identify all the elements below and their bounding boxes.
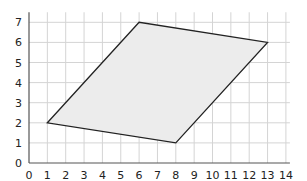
- x-tick-label: 7: [154, 169, 161, 181]
- x-tick-label: 3: [81, 169, 88, 181]
- x-tick-label: 0: [26, 169, 33, 181]
- x-tick-label: 5: [117, 169, 124, 181]
- x-axis-tick-labels: 01234567891011121314: [26, 169, 293, 181]
- x-tick-label: 2: [62, 169, 69, 181]
- y-axis-tick-labels: 01234567: [15, 16, 22, 170]
- y-tick-label: 7: [15, 16, 22, 29]
- x-tick-label: 13: [261, 169, 275, 181]
- x-tick-label: 4: [99, 169, 106, 181]
- x-tick-label: 9: [191, 169, 198, 181]
- y-tick-label: 3: [15, 97, 22, 110]
- y-tick-label: 2: [15, 117, 22, 130]
- y-tick-label: 5: [15, 57, 22, 70]
- x-tick-label: 11: [224, 169, 238, 181]
- x-tick-label: 6: [136, 169, 143, 181]
- y-tick-label: 1: [15, 137, 22, 150]
- x-tick-label: 1: [44, 169, 51, 181]
- y-tick-label: 0: [15, 157, 22, 170]
- y-tick-label: 6: [15, 36, 22, 49]
- x-tick-label: 8: [172, 169, 179, 181]
- y-tick-label: 4: [15, 77, 22, 90]
- coordinate-plane-chart: 01234567891011121314 01234567: [0, 0, 307, 181]
- x-tick-label: 10: [206, 169, 220, 181]
- x-tick-label: 12: [242, 169, 256, 181]
- x-tick-label: 14: [279, 169, 293, 181]
